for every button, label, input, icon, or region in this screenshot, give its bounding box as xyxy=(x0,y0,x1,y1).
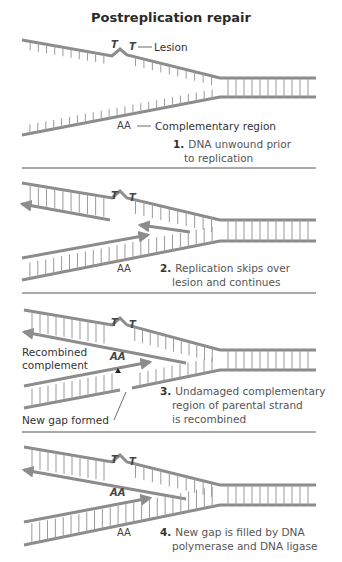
step-1-number: 1. xyxy=(173,138,184,150)
panel-4: T T AA AA 4.New gap is filled by DNA pol… xyxy=(24,447,317,552)
recombined-bases-label: AA xyxy=(109,351,125,362)
lesion-base-t1: T xyxy=(111,190,119,201)
lesion-base-t2: T xyxy=(129,41,137,52)
lesion-base-t1: T xyxy=(111,317,119,328)
parental-top-strand xyxy=(24,310,316,350)
step-3-line-3: is recombined xyxy=(172,413,246,425)
panel-1: T T Lesion AA Complementary region 1.DNA… xyxy=(22,39,316,164)
panel-3: T T AA Recombined complement New gap for… xyxy=(22,310,325,426)
recombined-bases-label: AA xyxy=(109,487,125,498)
parental-bottom-strand xyxy=(24,505,316,545)
step-4-line-1: 4.New gap is filled by DNA xyxy=(160,526,305,538)
step-2-line-2: lesion and continues xyxy=(172,276,280,288)
lesion-label: Lesion xyxy=(154,41,188,53)
step-2-line-1: 2.Replication skips over xyxy=(160,262,291,274)
complement-bases-label: AA xyxy=(117,120,131,131)
panel-2: T T AA 2.Replication skips over lesion a… xyxy=(22,183,316,288)
diagram-title: Postreplication repair xyxy=(91,10,251,25)
lesion-base-t1: T xyxy=(111,39,119,50)
daughter-strand-top-right xyxy=(140,225,190,232)
complementary-region-label: Complementary region xyxy=(155,120,276,132)
daughter-strand-top-left xyxy=(22,204,110,220)
recombined-complement-label-1: Recombined xyxy=(22,346,87,358)
step-3-line-2: region of parental strand xyxy=(172,399,303,411)
new-gap-leader-line xyxy=(114,392,126,420)
daughter-strand-top xyxy=(24,470,186,499)
step-4-line-2: polymerase and DNA ligase xyxy=(172,540,317,552)
lesion-base-t2: T xyxy=(129,319,137,330)
recombined-complement-label-2: complement xyxy=(22,359,88,371)
step-1-line-1: 1.DNA unwound prior xyxy=(173,138,292,150)
step-1-line-2: to replication xyxy=(184,152,253,164)
complement-bases-label: AA xyxy=(117,527,131,538)
complement-bases-label: AA xyxy=(117,263,131,274)
base-pair-ticks xyxy=(30,41,308,543)
step-3-line-1: 3.Undamaged complementary xyxy=(160,385,325,397)
new-gap-label: New gap formed xyxy=(22,414,109,426)
postreplication-repair-diagram: Postreplication repair T T Lesion AA Com… xyxy=(0,0,342,562)
parental-bottom-strand xyxy=(22,241,316,280)
lesion-base-t1: T xyxy=(111,454,119,465)
